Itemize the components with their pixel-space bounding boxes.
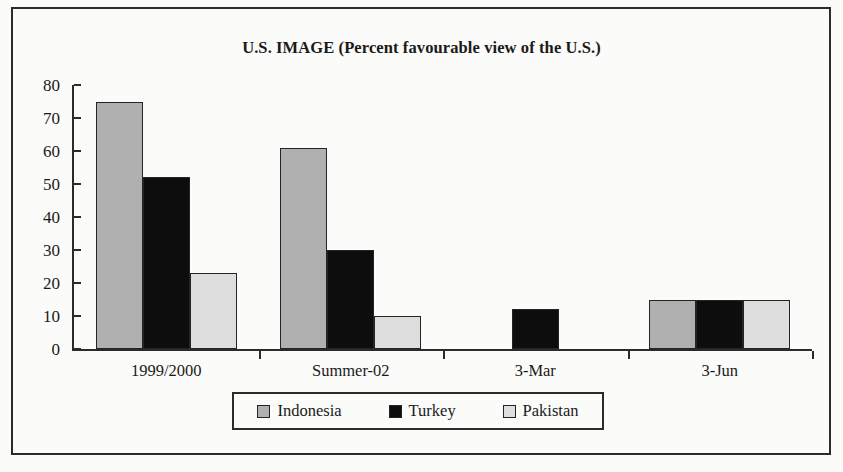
bar-group: [96, 85, 237, 349]
y-axis-label: 50: [14, 176, 60, 193]
y-axis-label: 70: [14, 110, 60, 127]
bar-indonesia-0: [96, 102, 143, 350]
x-axis-tick: [812, 351, 814, 359]
legend-label: Turkey: [409, 401, 456, 421]
bar-indonesia-3: [649, 300, 696, 350]
x-axis-category-label: 1999/2000: [131, 361, 202, 381]
y-axis-label: 0: [14, 341, 60, 358]
x-axis-category-label: 3-Jun: [701, 361, 738, 381]
legend-item-indonesia[interactable]: Indonesia: [257, 401, 341, 421]
bar-indonesia-1: [280, 148, 327, 349]
x-axis-tick: [628, 351, 630, 359]
bar-groups: [74, 85, 812, 349]
bar-pakistan-3: [743, 300, 790, 350]
y-axis-label: 40: [14, 209, 60, 226]
x-axis-category-label: 3-Mar: [515, 361, 556, 381]
bar-pakistan-1: [374, 316, 421, 349]
legend-label: Pakistan: [523, 401, 579, 421]
x-axis-category-label: Summer-02: [312, 361, 390, 381]
y-axis-label: 80: [14, 77, 60, 94]
legend-item-turkey[interactable]: Turkey: [389, 401, 456, 421]
chart-figure: U.S. IMAGE (Percent favourable view of t…: [0, 0, 843, 472]
x-axis-tick: [259, 351, 261, 359]
bar-group: [649, 85, 790, 349]
legend-swatch-icon: [257, 405, 270, 418]
bar-turkey-2: [512, 309, 559, 349]
plot-area: 01020304050607080 1999/2000Summer-023-Ma…: [72, 85, 812, 351]
bar-turkey-0: [143, 177, 190, 349]
legend-item-pakistan[interactable]: Pakistan: [503, 401, 579, 421]
bar-turkey-3: [696, 300, 743, 350]
y-axis-label: 10: [14, 308, 60, 325]
x-axis-tick: [443, 351, 445, 359]
legend-swatch-icon: [503, 405, 516, 418]
bar-group: [465, 85, 606, 349]
chart-legend: IndonesiaTurkeyPakistan: [232, 392, 604, 430]
legend-swatch-icon: [389, 405, 402, 418]
y-axis-tick-labels: 01020304050607080: [14, 85, 60, 351]
y-axis-label: 20: [14, 275, 60, 292]
x-axis-category-labels: 1999/2000Summer-023-Mar3-Jun: [74, 351, 812, 385]
bar-pakistan-0: [190, 273, 237, 349]
legend-label: Indonesia: [277, 401, 341, 421]
bar-group: [280, 85, 421, 349]
y-axis-label: 30: [14, 242, 60, 259]
chart-title: U.S. IMAGE (Percent favourable view of t…: [0, 38, 843, 58]
bar-turkey-1: [327, 250, 374, 349]
y-axis-label: 60: [14, 143, 60, 160]
